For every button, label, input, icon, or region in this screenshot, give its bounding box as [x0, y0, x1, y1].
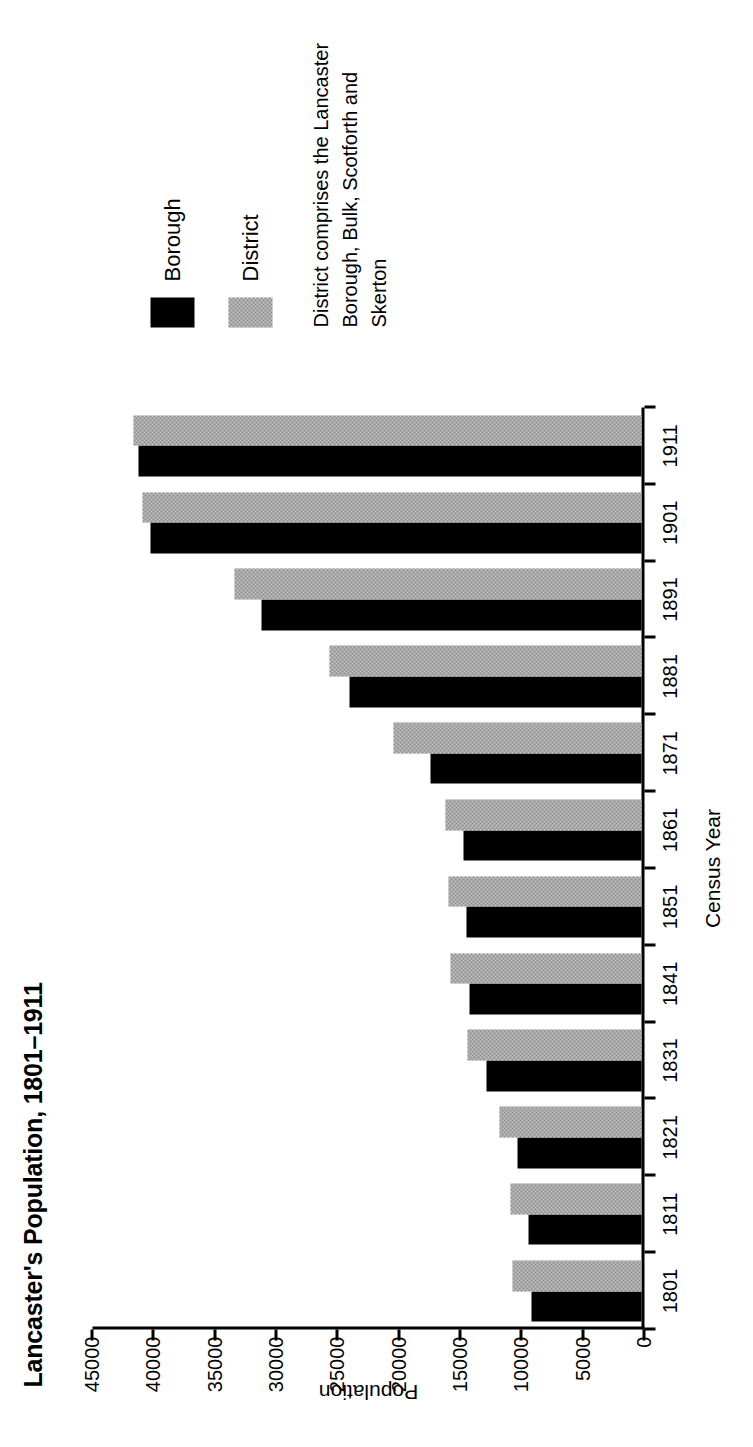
- bar-group: [393, 722, 641, 783]
- bar-district: [499, 1106, 641, 1137]
- x-axis-tick-label: 1871: [658, 731, 681, 776]
- bar-borough: [349, 676, 641, 707]
- bar-group: [448, 876, 641, 937]
- chart-figure: Lancaster's Population, 1801–1911 Popula…: [0, 0, 753, 1447]
- chart-title: Lancaster's Population, 1801–1911: [18, 982, 47, 1387]
- legend-note: District comprises the Lancaster Borough…: [306, 0, 393, 327]
- bar-group: [510, 1183, 641, 1244]
- x-axis-tick: [644, 1173, 655, 1176]
- bar-group: [467, 1029, 641, 1090]
- x-axis-tick-label: 1881: [658, 654, 681, 699]
- y-axis-title: Population: [92, 1342, 644, 1441]
- y-axis-tick-label: 45000: [81, 1336, 104, 1392]
- bar-group: [499, 1106, 641, 1167]
- x-axis-tick-label: 1811: [658, 1192, 681, 1235]
- x-axis-tick-label: 1841: [658, 961, 681, 1006]
- bar-borough: [469, 983, 641, 1014]
- legend-item-borough: Borough: [150, 0, 194, 327]
- y-axis-tick-label: 40000: [142, 1336, 165, 1392]
- x-axis-tick: [644, 1020, 655, 1023]
- x-axis-tick-label: 1801: [658, 1268, 681, 1313]
- bar-group: [329, 645, 641, 706]
- x-axis-tick-label: 1861: [658, 807, 681, 852]
- legend-label-borough: Borough: [159, 198, 185, 281]
- legend-swatch-district-icon: [228, 297, 272, 327]
- bar-borough: [466, 906, 641, 937]
- bar-group: [512, 1260, 641, 1321]
- y-axis-tick-label: 25000: [326, 1336, 349, 1392]
- y-axis-tick-label: 30000: [265, 1336, 288, 1392]
- rotated-figure-container: Lancaster's Population, 1801–1911 Popula…: [0, 0, 753, 1447]
- bar-borough: [138, 445, 641, 476]
- bar-district: [445, 799, 641, 830]
- bar-borough: [463, 830, 641, 861]
- bar-district: [234, 568, 641, 599]
- bar-group: [234, 568, 641, 629]
- legend-swatch-borough-icon: [150, 297, 194, 327]
- bar-borough: [486, 1060, 641, 1091]
- x-axis-tick: [644, 712, 655, 715]
- y-axis-tick-label: 0: [633, 1336, 656, 1347]
- x-axis-tick: [644, 943, 655, 946]
- bar-district: [512, 1260, 641, 1291]
- y-axis-tick-label: 5000: [571, 1336, 594, 1381]
- y-axis-tick-label: 35000: [203, 1336, 226, 1392]
- legend-item-district: District: [228, 0, 272, 327]
- bar-district: [142, 492, 641, 523]
- x-axis-tick: [644, 636, 655, 639]
- y-axis-tick-label: 20000: [387, 1336, 410, 1392]
- x-axis-tick: [644, 1250, 655, 1253]
- x-axis-tick-label: 1901: [658, 500, 681, 545]
- x-axis-tick: [644, 866, 655, 869]
- x-axis-tick-label: 1831: [658, 1038, 681, 1083]
- bar-borough: [430, 753, 641, 784]
- legend-note-line-2: Borough, Bulk, Scotforth and Skerton: [335, 0, 393, 327]
- bar-borough: [261, 599, 641, 630]
- x-axis-tick: [644, 1327, 655, 1330]
- bar-district: [329, 645, 641, 676]
- bar-group: [445, 799, 641, 860]
- bar-borough: [150, 522, 641, 553]
- x-axis-tick-label: 1851: [658, 884, 681, 929]
- x-axis-tick: [644, 1097, 655, 1100]
- y-axis-line: [92, 1326, 644, 1329]
- bar-group: [142, 492, 641, 553]
- x-axis-tick: [644, 559, 655, 562]
- x-axis-title: Census Year: [700, 407, 724, 1329]
- y-axis-tick-label: 10000: [510, 1336, 533, 1392]
- bar-borough: [517, 1137, 641, 1168]
- bar-district: [448, 876, 641, 907]
- bar-district: [133, 415, 641, 446]
- plot-area: 0500010000150002000025000300003500040000…: [92, 407, 644, 1329]
- legend-label-district: District: [237, 214, 263, 281]
- x-axis-tick: [644, 405, 655, 408]
- bar-group: [133, 415, 641, 476]
- y-axis-tick-label: 15000: [449, 1336, 472, 1392]
- x-axis-tick: [644, 482, 655, 485]
- bar-district: [467, 1029, 641, 1060]
- bar-district: [450, 953, 641, 984]
- bar-district: [510, 1183, 641, 1214]
- chart-legend: Borough District District comprises the …: [150, 0, 393, 327]
- x-axis-tick-label: 1891: [658, 577, 681, 622]
- x-axis-tick: [644, 789, 655, 792]
- legend-note-line-1: District comprises the Lancaster: [306, 0, 335, 327]
- bar-borough: [528, 1214, 641, 1245]
- x-axis-tick-label: 1821: [658, 1115, 681, 1160]
- bar-group: [450, 953, 641, 1014]
- x-axis-tick-label: 1911: [658, 424, 681, 467]
- bar-district: [393, 722, 641, 753]
- bar-borough: [531, 1291, 641, 1322]
